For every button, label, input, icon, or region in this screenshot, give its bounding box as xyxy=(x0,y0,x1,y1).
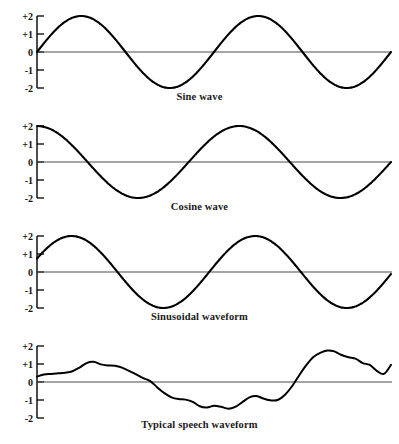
y-tick-label-1: +1 xyxy=(22,249,33,260)
y-tick-label-0: 0 xyxy=(28,377,33,388)
y-tick-label-2: +2 xyxy=(22,121,33,132)
y-tick-label-neg1: -1 xyxy=(25,175,33,186)
y-tick-label-2: +2 xyxy=(22,341,33,352)
y-tick-label-neg1: -1 xyxy=(25,285,33,296)
y-tick-label-1: +1 xyxy=(22,359,33,370)
caption-speech: Typical speech waveform xyxy=(0,419,399,430)
panel-speech: +2 +1 0 -1 -2 Typical speech waveform xyxy=(0,330,399,441)
y-tick-label-0: 0 xyxy=(28,157,33,168)
caption-sinusoidal: Sinusoidal waveform xyxy=(0,311,399,322)
panel-sinusoidal: +2 +1 0 -1 -2 Sinusoidal waveform xyxy=(0,220,399,331)
waveform-figure: +2 +1 0 -1 -2 Sine wave +2 +1 0 -1 -2 Co… xyxy=(0,0,399,444)
y-tick-label-2: +2 xyxy=(22,231,33,242)
y-tick-label-neg1: -1 xyxy=(25,395,33,406)
caption-sine: Sine wave xyxy=(0,91,399,102)
panel-cosine: +2 +1 0 -1 -2 Cosine wave xyxy=(0,110,399,221)
y-tick-label-0: 0 xyxy=(28,267,33,278)
y-tick-label-0: 0 xyxy=(28,47,33,58)
y-tick-label-2: +2 xyxy=(22,11,33,22)
y-tick-label-1: +1 xyxy=(22,139,33,150)
speech-waveform-curve xyxy=(37,350,391,408)
panel-sine: +2 +1 0 -1 -2 Sine wave xyxy=(0,0,399,111)
y-tick-label-neg1: -1 xyxy=(25,65,33,76)
y-tick-label-1: +1 xyxy=(22,29,33,40)
caption-cosine: Cosine wave xyxy=(0,201,399,212)
